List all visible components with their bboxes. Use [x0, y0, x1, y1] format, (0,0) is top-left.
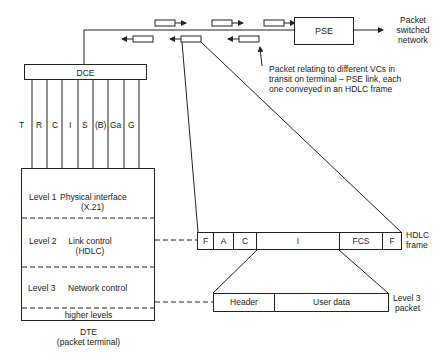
- level3-desc: Network control: [68, 283, 127, 293]
- circuit-i: I: [69, 120, 71, 130]
- level1-desc: Physical interface (X.21): [60, 192, 125, 212]
- pse-label: PSE: [295, 26, 353, 36]
- level2-label: Level 2: [29, 236, 56, 246]
- field-c: C: [234, 233, 257, 249]
- pse-box: PSE: [294, 17, 354, 45]
- dte-caption: DTE (packet terminal): [22, 327, 155, 347]
- circuit-g: G: [128, 120, 135, 130]
- level3-label: Level 3: [28, 283, 55, 293]
- field-fcs: FCS: [340, 233, 383, 249]
- level3-packet: Header User data: [213, 293, 389, 312]
- dce-label: DCE: [25, 68, 146, 78]
- field-a: A: [214, 233, 234, 249]
- hdlc-frame: F A C I FCS F: [197, 232, 402, 250]
- circuit-ga: Ga: [110, 120, 121, 130]
- circuit-s: S: [82, 120, 88, 130]
- higher-levels-label: higher levels: [22, 310, 155, 320]
- level2-desc: Link control (HDLC): [60, 236, 120, 256]
- field-i: I: [257, 233, 340, 249]
- network-label: Packet switched network: [388, 15, 438, 45]
- circuit-c: C: [52, 120, 58, 130]
- dce-box: DCE: [24, 64, 147, 80]
- level3-packet-label: Level 3 packet: [393, 293, 420, 313]
- vc-annotation: Packet relating to different VCs in tran…: [269, 64, 401, 94]
- packet-user-data: User data: [275, 294, 388, 311]
- circuit-r: R: [36, 120, 42, 130]
- incoming-packets: [122, 36, 259, 42]
- field-f-start: F: [198, 233, 214, 249]
- level1-label: Level 1: [29, 192, 56, 202]
- outgoing-packets: [155, 20, 295, 26]
- field-f-end: F: [383, 233, 401, 249]
- circuit-t: T: [19, 120, 24, 130]
- terminal-pse-link: [84, 30, 294, 64]
- hdlc-frame-label: HDLC frame: [406, 230, 429, 250]
- packet-header: Header: [214, 294, 275, 311]
- circuit-b: (B): [95, 120, 106, 130]
